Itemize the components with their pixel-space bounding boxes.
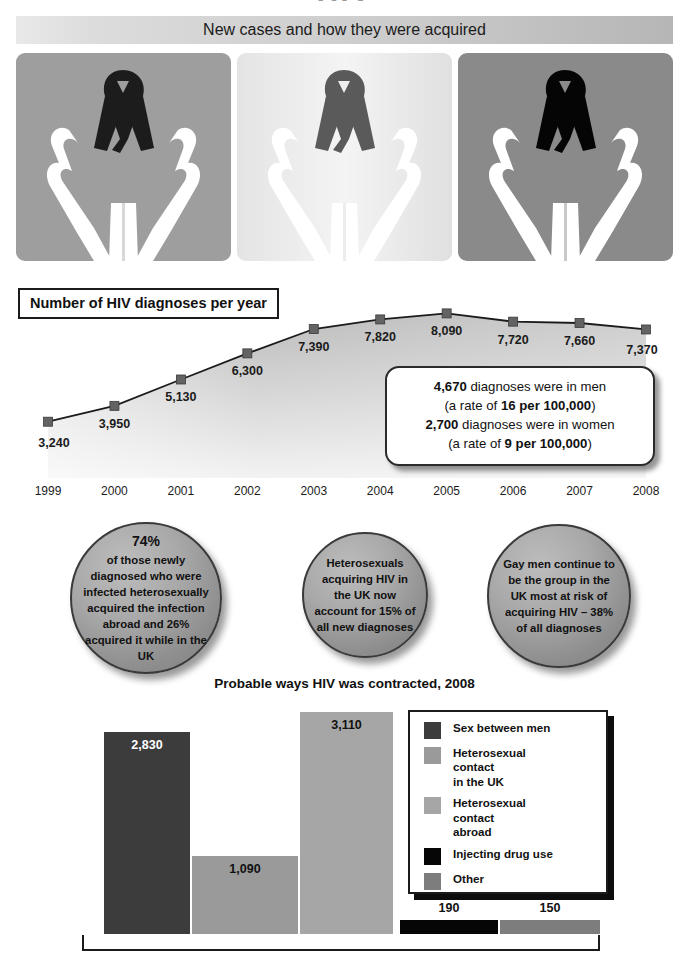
baseline-tick-right — [598, 935, 600, 951]
bubble-text: 74%of those newly diagnosed who were inf… — [72, 532, 220, 664]
callout-men-text: diagnoses were in men — [467, 379, 606, 394]
bar-chart-section: Probable ways HIV was contracted, 2008 2… — [0, 676, 689, 966]
line-chart-title: Number of HIV diagnoses per year — [18, 288, 279, 319]
bar-value-label: 1,090 — [229, 862, 260, 876]
subtitle-text: New cases and how they were acquired — [203, 21, 486, 39]
hero-image-strip — [16, 53, 673, 261]
callout-women-rate-pre: (a rate of — [448, 436, 504, 451]
legend-swatch-icon — [424, 873, 441, 890]
callout-women-text: diagnoses were in women — [458, 417, 614, 432]
line-chart-value-label: 6,300 — [232, 364, 263, 378]
bar-chart-baseline — [82, 949, 600, 951]
legend-item-5[interactable]: Other — [424, 872, 598, 890]
bar-2[interactable]: 1,090 — [192, 856, 298, 934]
line-chart-marker[interactable] — [442, 309, 451, 318]
bubble-heterosexual-abroad: 74%of those newly diagnosed who were inf… — [70, 522, 222, 674]
line-chart-x-tick: 2007 — [566, 484, 593, 498]
legend-item-2[interactable]: Heterosexualcontactin the UK — [424, 746, 598, 789]
line-chart-marker[interactable] — [110, 401, 119, 410]
callout-men-rate: 16 per 100,000 — [501, 398, 591, 413]
line-chart-section: Number of HIV diagnoses per year 3,2403,… — [0, 272, 689, 512]
line-chart-x-tick: 1999 — [35, 484, 62, 498]
callout-men-rate-pre: (a rate of — [444, 398, 500, 413]
legend-label: Other — [453, 872, 484, 886]
line-chart-value-label: 7,660 — [564, 334, 595, 348]
bubble-text: Gay men continue to be the group in the … — [489, 556, 629, 636]
diagnoses-by-sex-callout: 4,670 diagnoses were in men (a rate of 1… — [385, 366, 655, 466]
line-chart-value-label: 3,950 — [99, 417, 130, 431]
callout-women-rate-post: ) — [587, 436, 591, 451]
callout-men-rate-post: ) — [591, 398, 595, 413]
bar-4[interactable]: 190 — [400, 920, 498, 934]
line-chart-value-label: 5,130 — [165, 390, 196, 404]
hands-ribbon-icon — [237, 53, 452, 261]
bubble-heterosexual-uk: Heterosexuals acquiring HIV in the UK no… — [302, 532, 428, 658]
callout-men-value: 4,670 — [434, 379, 467, 394]
legend-swatch-icon — [424, 722, 441, 739]
line-chart-marker[interactable] — [309, 325, 318, 334]
legend-swatch-icon — [424, 747, 441, 764]
legend-label: Heterosexualcontactabroad — [453, 796, 526, 839]
bar-value-label: 3,110 — [331, 718, 362, 732]
bar-3[interactable]: 3,110 — [300, 712, 393, 934]
subtitle-banner: New cases and how they were acquired — [16, 16, 673, 44]
line-chart-marker[interactable] — [44, 417, 53, 426]
line-chart-x-tick: 2001 — [168, 484, 195, 498]
line-chart-x-tick: 2008 — [633, 484, 660, 498]
hero-panel-1 — [16, 53, 231, 261]
hands-ribbon-icon — [16, 53, 231, 261]
legend-swatch-icon — [424, 848, 441, 865]
line-chart-value-label: 7,720 — [497, 333, 528, 347]
line-chart-value-label: 7,390 — [298, 340, 329, 354]
legend-item-3[interactable]: Heterosexualcontactabroad — [424, 796, 598, 839]
line-chart-marker[interactable] — [509, 317, 518, 326]
line-chart-x-tick: 2005 — [433, 484, 460, 498]
line-chart-value-label: 8,090 — [431, 324, 462, 338]
line-chart-marker[interactable] — [376, 315, 385, 324]
cut-off-page-title-text: HIV — [0, 0, 689, 8]
hands-ribbon-icon — [458, 53, 673, 261]
bubble-text: Heterosexuals acquiring HIV in the UK no… — [304, 555, 426, 635]
callout-line-2: (a rate of 16 per 100,000) — [395, 396, 645, 415]
callout-women-value: 2,700 — [425, 417, 458, 432]
line-chart-value-label: 3,240 — [38, 436, 69, 450]
line-chart-value-label: 7,370 — [626, 343, 657, 357]
line-chart-x-tick: 2002 — [234, 484, 261, 498]
bar-1[interactable]: 2,830 — [104, 732, 190, 934]
line-chart-x-axis: 1999200020012002200320042005200620072008 — [18, 484, 671, 506]
line-chart-marker[interactable] — [642, 325, 651, 334]
hero-panel-3 — [458, 53, 673, 261]
line-chart-x-tick: 2003 — [300, 484, 327, 498]
callout-line-4: (a rate of 9 per 100,000) — [395, 434, 645, 453]
line-chart-value-label: 7,820 — [365, 330, 396, 344]
bar-value-label: 190 — [439, 901, 460, 915]
bar-5[interactable]: 150 — [500, 920, 600, 934]
line-chart-x-tick: 2004 — [367, 484, 394, 498]
legend-label: Heterosexualcontactin the UK — [453, 746, 526, 789]
line-chart-x-tick: 2000 — [101, 484, 128, 498]
legend-item-4[interactable]: Injecting drug use — [424, 847, 598, 865]
legend-item-1[interactable]: Sex between men — [424, 721, 598, 739]
line-chart-marker[interactable] — [243, 349, 252, 358]
legend-label: Injecting drug use — [453, 847, 553, 861]
callout-line-3: 2,700 diagnoses were in women — [395, 415, 645, 434]
cut-off-page-title: HIV — [0, 0, 689, 9]
line-chart-marker[interactable] — [176, 375, 185, 384]
baseline-tick-left — [82, 935, 84, 951]
bar-chart-legend: Sex between menHeterosexualcontactin the… — [408, 710, 608, 894]
line-chart-x-tick: 2006 — [500, 484, 527, 498]
callout-line-1: 4,670 diagnoses were in men — [395, 377, 645, 396]
legend-label: Sex between men — [453, 721, 550, 735]
hero-panel-2 — [237, 53, 452, 261]
bubble-gay-men: Gay men continue to be the group in the … — [487, 524, 631, 668]
bar-value-label: 150 — [540, 901, 561, 915]
callout-women-rate: 9 per 100,000 — [505, 436, 588, 451]
fact-bubbles: 74%of those newly diagnosed who were inf… — [0, 520, 689, 675]
bubble-headline: 74% — [132, 533, 160, 549]
bar-value-label: 2,830 — [131, 738, 162, 752]
legend-swatch-icon — [424, 797, 441, 814]
line-chart-marker[interactable] — [575, 318, 584, 327]
